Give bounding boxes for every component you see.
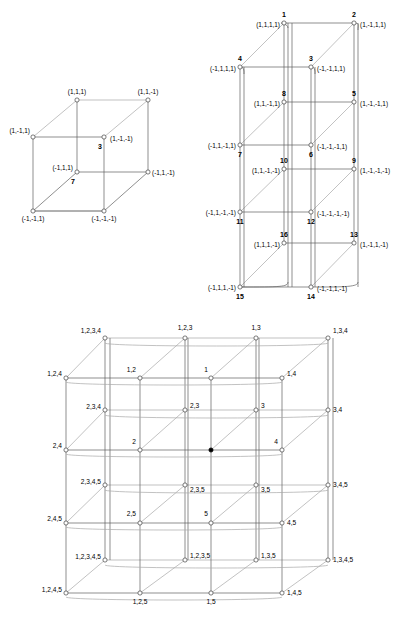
lattice-edge: [66, 560, 105, 593]
hypercube-vertex: [238, 285, 242, 289]
hypercube-index-label: 1: [282, 11, 286, 18]
hypercube-index-label: 7: [238, 151, 242, 158]
lattice-vertex: [209, 591, 213, 595]
lattice-vertex-label: 3,4,5: [333, 481, 348, 488]
lattice-vertex: [326, 408, 330, 412]
lattice-wrap-edge: [66, 527, 282, 530]
lattice-vertex: [280, 521, 284, 525]
cube-vertex: [102, 135, 106, 139]
lattice-vertex: [103, 558, 107, 562]
hypercube-coord-label: (-1,-1,1,1): [317, 65, 345, 73]
hypercube-coord-label: (1,-1,1,1): [360, 21, 386, 29]
hypercube-vertex: [238, 210, 242, 214]
lattice-edge: [66, 410, 105, 450]
hypercube-coord-label: (1,1,1,1): [256, 21, 280, 29]
hypercube-coord-label: (-1,-1,1,-1): [317, 285, 347, 293]
lattice-vertex-label: 1,2,3,5: [190, 552, 210, 559]
hypercube-index-label: 9: [352, 157, 356, 164]
hypercube-coord-label: (1,1,1,-1): [254, 241, 280, 249]
lattice-vertex-label: 4: [274, 438, 278, 445]
hypercube-index-label: 11: [236, 218, 244, 225]
lattice-vertex-label: 1,3,5: [261, 552, 276, 559]
lattice-vertex-label: 1,3,4: [333, 327, 348, 334]
cube-vertex: [146, 98, 150, 102]
lattice-vertex: [103, 483, 107, 487]
hypercube-index-label: 14: [307, 293, 315, 300]
lattice-vertex-label: 1,2,3,4,5: [75, 553, 101, 560]
lattice-vertex-label: 3: [261, 402, 265, 409]
lattice-vertex: [183, 558, 187, 562]
hypercube-labels: 1 (1,1,1,1) 2 (1,-1,1,1) 3 (-1,-1,1,1) 4…: [206, 11, 390, 300]
vertex-index-label: 7: [71, 178, 75, 185]
hypercube-coord-label: (1,-1,1,-1): [360, 241, 388, 249]
lattice-vertex: [209, 376, 213, 380]
hypercube-nodes: [238, 21, 356, 289]
cube-vertex: [31, 209, 35, 213]
hypercube-index-label: 6: [309, 151, 313, 158]
vertex-label: (-1,-1,-1): [92, 215, 117, 223]
lattice-vertex-label: 2,3: [190, 402, 199, 409]
lattice-vertex: [138, 448, 142, 452]
hypercube-vertex: [282, 21, 286, 25]
lattice-vertex-label: 2,4: [53, 442, 62, 449]
lattice-vertex: [138, 376, 142, 380]
hypercube-coord-label: (1,-1,-1,-1): [360, 167, 390, 175]
cube-3d-edges: [33, 100, 148, 211]
lattice-vertex: [280, 591, 284, 595]
lattice-vertex: [103, 408, 107, 412]
lattice-wrap-edge: [66, 382, 282, 385]
lattice-vertex-label: 1,4: [287, 370, 296, 377]
lattice-wrap-edge: [66, 597, 282, 600]
lattice-vertex: [64, 521, 68, 525]
lattice-vertex: [326, 336, 330, 340]
lattice-vertex-label: 1,2,5: [133, 598, 148, 605]
hypercube-vertex: [238, 143, 242, 147]
lattice-vertex: [183, 483, 187, 487]
lattice-vertex-label: 2,4,5: [47, 515, 62, 522]
hypercube-index-label: 12: [307, 218, 315, 225]
hypercube-coord-label: (-1,1,1,1): [210, 65, 236, 73]
lattice-labels: 1,2,3,41,2,31,31,3,41,2,41,211,42,3,42,3…: [42, 324, 354, 605]
vertex-label: (-1,1,-1): [152, 169, 175, 177]
hypercube-coord-label: (1,1,-1,-1): [252, 167, 280, 175]
hypercube-index-label: 15: [236, 293, 244, 300]
vertex-label: (1,-1,-1): [110, 135, 133, 143]
cube-vertex: [31, 135, 35, 139]
lattice-wrap-edge: [105, 343, 328, 346]
vertex-label: (-1,-1,1): [22, 215, 45, 223]
lattice-wrap-edge: [66, 454, 282, 457]
hypercube-index-label: 3: [309, 55, 313, 62]
figure-lattice-5d: 1,2,3,41,2,31,31,3,41,2,41,211,42,3,42,3…: [0, 318, 406, 623]
lattice-vertex: [183, 408, 187, 412]
vertex-label: (1,1,-1): [138, 88, 159, 96]
lattice-edge: [140, 560, 185, 593]
lattice-edge: [211, 560, 256, 593]
hypercube-vertex: [352, 100, 356, 104]
hypercube-vertex: [309, 143, 313, 147]
lattice-vertex-label: 1,2: [127, 366, 136, 373]
cube-vertex: [102, 209, 106, 213]
vertex-label: (1,-1,1): [9, 127, 30, 135]
hypercube-index-label: 16: [280, 231, 288, 238]
lattice-vertex: [326, 558, 330, 562]
lattice-vertex: [64, 591, 68, 595]
lattice-vertex-label: 1,3: [251, 324, 260, 331]
hypercube-index-label: 5: [352, 90, 356, 97]
lattice-vertex-label: 2,3,4,5: [81, 478, 101, 485]
hypercube-vertex: [282, 241, 286, 245]
hypercube-vertex: [352, 167, 356, 171]
hypercube-vertex: [282, 100, 286, 104]
hypercube-index-label: 4: [238, 55, 242, 62]
hypercube-coord-label: (-1,1,-1,-1): [206, 209, 236, 217]
lattice-vertex-label: 1,3,4,5: [333, 556, 353, 563]
hypercube-vertex: [238, 65, 242, 69]
lattice-vertex: [138, 591, 142, 595]
lattice-vertex-label: 1,2,4,5: [42, 586, 62, 593]
cube-3d-labels: (1,1,1) (1,1,-1) (1,-1,1) (1,-1,-1) (-1,…: [9, 88, 174, 223]
hypercube-vertex: [282, 167, 286, 171]
hypercube-index-label: 13: [350, 231, 358, 238]
lattice-vertex: [254, 558, 258, 562]
hypercube-vertex: [309, 285, 313, 289]
lattice-edge: [140, 338, 185, 378]
lattice-vertex: [254, 483, 258, 487]
